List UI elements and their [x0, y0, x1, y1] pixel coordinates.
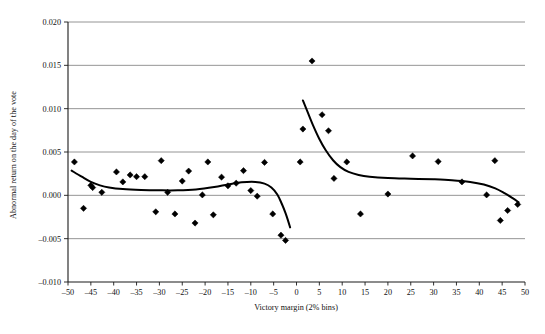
data-point: [210, 212, 216, 218]
y-tick-label: 0.010: [43, 105, 61, 114]
x-tick-label: –10: [244, 288, 257, 297]
data-point: [205, 159, 211, 165]
y-tick-label: 0.015: [43, 61, 61, 70]
x-tick-label: 40: [475, 288, 483, 297]
x-tick-label: –45: [84, 288, 97, 297]
x-tick-label: 30: [430, 288, 438, 297]
x-tick-label: –25: [175, 288, 188, 297]
data-point: [233, 180, 239, 186]
data-point: [331, 175, 337, 181]
data-point: [297, 159, 303, 165]
data-point: [261, 159, 267, 165]
y-tick-label: 0.000: [43, 191, 61, 200]
x-tick-label: –40: [107, 288, 120, 297]
data-point: [80, 205, 86, 211]
y-axis-title: Abnormal return on the day of the vote: [9, 91, 18, 219]
x-tick-label: –5: [269, 288, 278, 297]
gridlines: [68, 22, 525, 239]
data-point: [99, 189, 105, 195]
data-point: [319, 112, 325, 118]
data-point: [240, 168, 246, 174]
x-tick-label: 45: [498, 288, 506, 297]
data-point: [113, 169, 119, 175]
data-point: [153, 209, 159, 215]
y-axis-tick-labels: –0.010–0.0050.0000.0050.0100.0150.020: [37, 18, 61, 287]
data-point: [127, 172, 133, 178]
data-point: [218, 174, 224, 180]
x-tick-label: 5: [317, 288, 321, 297]
data-point: [385, 191, 391, 197]
x-tick-label: –35: [129, 288, 142, 297]
x-axis-ticks: [68, 282, 525, 286]
data-point: [71, 159, 77, 165]
x-tick-label: 15: [361, 288, 369, 297]
data-point: [409, 153, 415, 159]
x-tick-label: 25: [407, 288, 415, 297]
data-point: [309, 58, 315, 64]
x-tick-label: 0: [294, 288, 298, 297]
data-point: [186, 168, 192, 174]
data-point: [344, 159, 350, 165]
x-tick-label: 10: [338, 288, 346, 297]
data-point: [515, 201, 521, 207]
fitted-curves: [72, 100, 519, 227]
data-point: [133, 174, 139, 180]
x-axis-title: Victory margin (2% bins): [254, 303, 338, 312]
data-point: [505, 207, 511, 213]
y-tick-label: –0.010: [37, 278, 61, 287]
x-tick-label: 20: [384, 288, 392, 297]
x-tick-label: 50: [521, 288, 529, 297]
data-points: [71, 58, 520, 244]
data-point: [120, 179, 126, 185]
data-point: [435, 158, 441, 164]
data-point: [492, 158, 498, 164]
data-point: [158, 158, 164, 164]
scatter-plot: –0.010–0.0050.0000.0050.0100.0150.020 –5…: [0, 0, 545, 334]
y-tick-label: –0.005: [37, 235, 61, 244]
data-point: [278, 232, 284, 238]
data-point: [484, 192, 490, 198]
data-point: [357, 211, 363, 217]
data-point: [179, 178, 185, 184]
right-side-fit: [303, 100, 519, 202]
x-tick-label: 35: [452, 288, 460, 297]
data-point: [248, 187, 254, 193]
x-tick-label: –15: [221, 288, 234, 297]
y-tick-label: 0.020: [43, 18, 61, 27]
data-point: [199, 192, 205, 198]
x-tick-label: –30: [152, 288, 165, 297]
y-tick-label: 0.005: [43, 148, 61, 157]
x-tick-label: –20: [198, 288, 211, 297]
x-tick-label: –50: [61, 288, 74, 297]
data-point: [142, 174, 148, 180]
data-point: [270, 211, 276, 217]
data-point: [300, 126, 306, 132]
y-axis-ticks: [64, 22, 68, 282]
x-axis-tick-labels: –50–45–40–35–30–25–20–15–10–505101520253…: [61, 288, 529, 297]
data-point: [459, 179, 465, 185]
data-point: [254, 193, 260, 199]
data-point: [172, 211, 178, 217]
data-point: [325, 128, 331, 134]
data-point: [192, 220, 198, 226]
data-point: [282, 237, 288, 243]
chart-figure: –0.010–0.0050.0000.0050.0100.0150.020 –5…: [0, 0, 545, 334]
data-point: [497, 217, 503, 223]
